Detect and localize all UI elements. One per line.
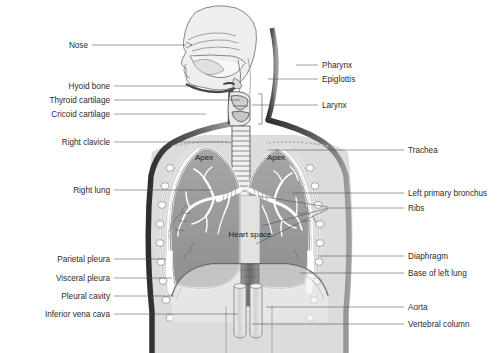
label-cricoid-cartilage: Cricoid cartilage [51, 110, 110, 119]
label-vertebral-column: Vertebral column [408, 320, 470, 329]
label-left-primary-bronchus: Left primary bronchus [408, 189, 487, 198]
diagram-canvas: Nose Hyoid bone Thyroid cartilage Cricoi… [0, 0, 500, 353]
label-right-lung: Right lung [73, 186, 110, 195]
label-larynx: Larynx [322, 101, 347, 110]
ivc-lumen [234, 284, 246, 289]
anatomy-svg: Nose Hyoid bone Thyroid cartilage Cricoi… [0, 0, 500, 353]
label-aorta: Aorta [408, 303, 428, 312]
label-apex-left: Apex [267, 153, 285, 162]
label-thyroid-cartilage: Thyroid cartilage [49, 96, 110, 105]
label-hyoid-bone: Hyoid bone [69, 82, 111, 91]
label-parietal-pleura: Parietal pleura [57, 255, 110, 264]
label-epiglottis: Epiglottis [322, 75, 355, 84]
label-diaphragm: Diaphragm [408, 252, 448, 261]
label-apex-right: Apex [195, 153, 213, 162]
hyoid-bone-shape [224, 83, 234, 84]
label-ribs: Ribs [408, 204, 424, 213]
label-pleural-cavity: Pleural cavity [61, 292, 111, 301]
label-pharynx: Pharynx [322, 61, 352, 70]
label-visceral-pleura: Visceral pleura [56, 274, 110, 283]
label-trachea: Trachea [408, 146, 438, 155]
label-nose: Nose [69, 41, 89, 50]
aorta-shape [250, 286, 262, 338]
label-heart-space: Heart space [228, 230, 272, 239]
inferior-vena-cava-shape [234, 286, 246, 338]
aorta-lumen [250, 284, 262, 289]
label-inferior-vena-cava: Inferior vena cava [45, 310, 111, 319]
label-base-of-left-lung: Base of left lung [408, 269, 467, 278]
label-right-clavicle: Right clavicle [62, 138, 111, 147]
